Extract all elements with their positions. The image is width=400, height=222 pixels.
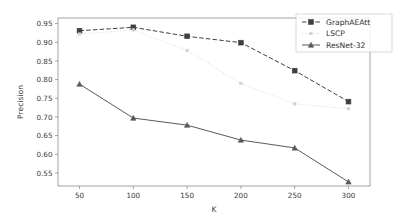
series-resnet-32 [77,81,351,184]
data-point-marker [347,107,350,110]
legend-item-label: LSCP [326,29,345,38]
data-point-marker [77,81,82,86]
data-point-marker [346,99,351,104]
precision-vs-k-line-chart: 0.550.600.650.700.750.800.850.900.955010… [0,0,400,222]
legend-layer: GraphAEAttLSCPResNet-32 [296,14,392,52]
y-tick-label: 0.80 [36,75,52,84]
x-axis-title: K [212,205,218,214]
x-tick-label: 300 [342,191,356,200]
data-point-marker [293,103,296,106]
x-tick-label: 50 [75,191,85,200]
data-point-marker [238,40,243,45]
y-tick-label: 0.90 [36,38,52,47]
data-point-marker [77,28,82,33]
y-tick-label: 0.55 [36,169,52,178]
data-point-marker [240,82,243,85]
data-point-marker [132,29,135,32]
y-tick-label: 0.85 [36,57,52,66]
legend-item-label: ResNet-32 [326,41,365,50]
y-tick-label: 0.70 [36,113,52,122]
x-tick-label: 100 [126,191,140,200]
chart-figure: 0.550.600.650.700.750.800.850.900.955010… [0,0,400,222]
legend-marker-swatch [309,20,314,25]
legend-item-label: GraphAEAtt [326,18,370,27]
y-tick-label: 0.75 [36,94,52,103]
y-tick-label: 0.95 [36,19,52,28]
legend-marker-swatch [310,32,313,35]
y-tick-label: 0.65 [36,131,52,140]
y-axis-title: Precision [16,85,25,119]
data-point-marker [185,34,190,39]
data-point-marker [346,179,351,184]
x-tick-label: 150 [180,191,194,200]
data-point-marker [292,68,297,73]
y-tick-label: 0.60 [36,150,52,159]
series-line [80,84,349,182]
data-point-marker [78,33,81,36]
x-tick-label: 200 [234,191,248,200]
data-point-marker [186,49,189,52]
x-tick-label: 250 [288,191,302,200]
